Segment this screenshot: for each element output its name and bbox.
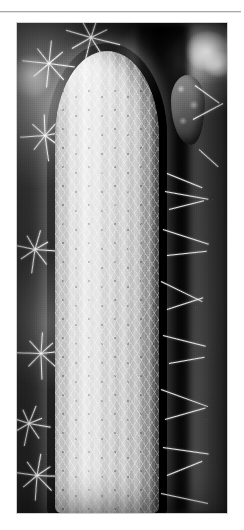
cactus-stem — [55, 51, 159, 513]
photo-canvas — [17, 23, 227, 513]
page-root: Black and white photograph of a columnar… — [0, 0, 244, 530]
figure-photograph: Black and white photograph of a columnar… — [17, 23, 227, 513]
cactus-highlight — [65, 51, 111, 513]
horizontal-rule — [0, 11, 241, 12]
backlight-bloom-secondary — [203, 51, 227, 77]
